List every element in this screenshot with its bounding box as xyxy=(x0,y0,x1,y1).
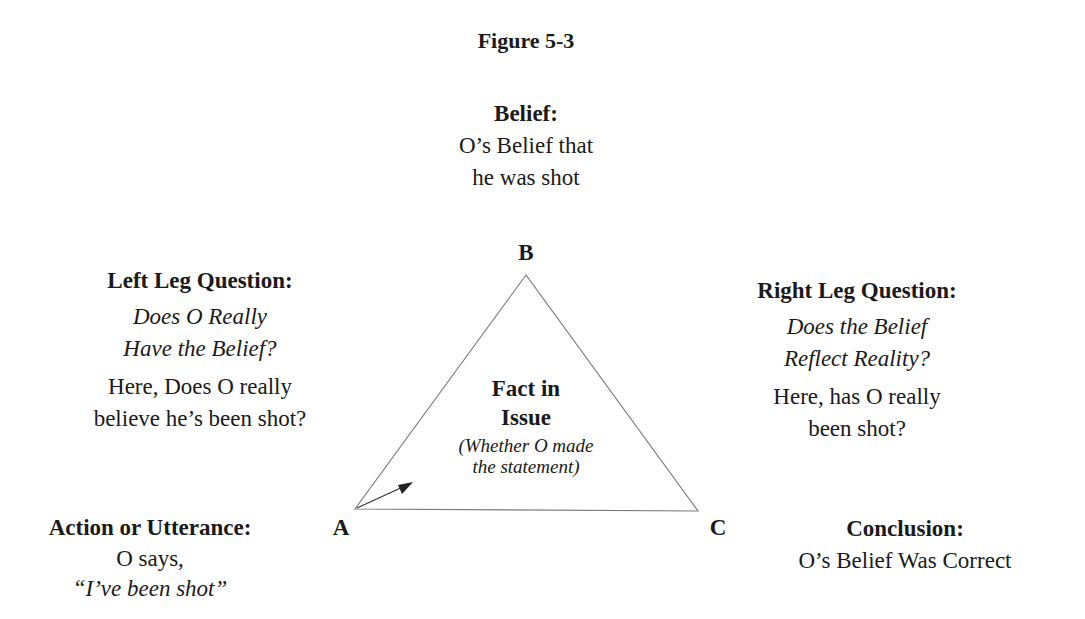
right-leg-heading: Right Leg Question: xyxy=(707,275,1007,307)
belief-line-1: O’s Belief that xyxy=(406,130,646,162)
right-leg-detail-2: been shot? xyxy=(707,413,1007,445)
left-leg-detail-1: Here, Does O really xyxy=(50,371,350,403)
action-line-2: “I’ve been shot” xyxy=(15,574,285,604)
right-leg-block: Right Leg Question: Does the Belief Refl… xyxy=(707,275,1007,445)
fact-sub-2: the statement) xyxy=(426,456,626,477)
belief-heading: Belief: xyxy=(406,98,646,130)
right-leg-detail-1: Here, has O really xyxy=(707,381,1007,413)
action-heading: Action or Utterance: xyxy=(15,512,285,544)
left-leg-question-1: Does O Really xyxy=(50,301,350,333)
left-leg-detail-2: believe he’s been shot? xyxy=(50,403,350,435)
fact-heading-2: Issue xyxy=(426,403,626,432)
right-leg-question-2: Reflect Reality? xyxy=(707,343,1007,375)
belief-block: Belief: O’s Belief that he was shot xyxy=(406,98,646,194)
vertex-a-label: A xyxy=(321,512,361,544)
conclusion-line-1: O’s Belief Was Correct xyxy=(755,545,1055,577)
fact-heading-1: Fact in xyxy=(426,374,626,403)
figure-title: Figure 5-3 xyxy=(426,24,626,57)
conclusion-heading: Conclusion: xyxy=(755,513,1055,545)
left-leg-block: Left Leg Question: Does O Really Have th… xyxy=(50,265,350,435)
fact-sub-1: (Whether O made xyxy=(426,435,626,456)
vertex-b-label: B xyxy=(506,237,546,269)
arrow-head-icon xyxy=(398,482,413,494)
action-block: Action or Utterance: O says, “I’ve been … xyxy=(15,512,285,604)
fact-in-issue-block: Fact in Issue (Whether O made the statem… xyxy=(426,374,626,477)
right-leg-question-1: Does the Belief xyxy=(707,311,1007,343)
left-leg-question-2: Have the Belief? xyxy=(50,333,350,365)
conclusion-block: Conclusion: O’s Belief Was Correct xyxy=(755,513,1055,577)
left-leg-heading: Left Leg Question: xyxy=(50,265,350,297)
belief-line-2: he was shot xyxy=(406,162,646,194)
vertex-c-label: C xyxy=(698,512,738,544)
action-line-1: O says, xyxy=(15,544,285,574)
